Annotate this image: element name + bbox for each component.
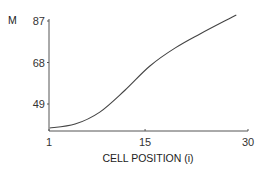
x-tick-label: 30 [242,136,254,148]
x-tick-label: 1 [46,136,52,148]
x-axis-title: CELL POSITION (i) [102,152,193,164]
y-tick-label: 87 [33,15,45,27]
series-line-m [50,15,237,128]
y-tick-label: 49 [33,98,45,110]
line-chart: 496887 11530 M CELL POSITION (i) [0,0,267,178]
y-ticks: 496887 [33,15,49,110]
x-ticks: 11530 [46,129,254,148]
x-tick-label: 15 [139,136,151,148]
y-tick-label: 68 [33,57,45,69]
y-axis-title: M [8,14,17,26]
axes [49,19,248,131]
